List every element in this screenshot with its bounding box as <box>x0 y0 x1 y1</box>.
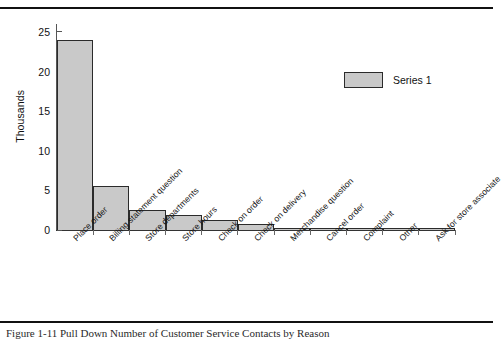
legend-label-series-1: Series 1 <box>393 74 432 86</box>
y-tick-25: 25 <box>38 26 57 38</box>
bottom-rule <box>0 321 493 323</box>
chart-legend: Series 1 <box>344 72 432 88</box>
legend-swatch-series-1 <box>344 72 383 88</box>
top-rule <box>0 7 493 9</box>
y-tick-20: 20 <box>38 66 57 78</box>
bar <box>57 40 93 230</box>
y-axis-label: Thousands <box>14 90 28 143</box>
figure-caption: Figure 1-11 Pull Down Number of Customer… <box>6 327 329 339</box>
y-tick-0: 0 <box>44 224 57 236</box>
y-tick-15: 15 <box>38 105 57 117</box>
y-tick-5: 5 <box>44 184 57 196</box>
y-tick-10: 10 <box>38 145 57 157</box>
